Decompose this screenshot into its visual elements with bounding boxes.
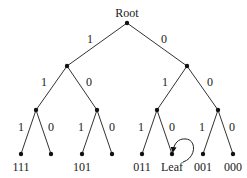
edge-label: 1 — [78, 120, 84, 134]
tree-edges — [21, 23, 233, 154]
tree-node — [155, 108, 159, 112]
tree-node — [65, 64, 69, 68]
leaf-label: 101 — [73, 160, 91, 174]
root-label: Root — [115, 6, 139, 20]
tree-node — [110, 152, 114, 156]
tree-edge — [127, 23, 187, 66]
binary-tree-diagram: 10101010101010 Root 111101011Leaf001000 — [0, 0, 247, 178]
edge-label: 0 — [169, 120, 175, 134]
tree-node — [140, 152, 144, 156]
leaf-label: 011 — [133, 160, 151, 174]
tree-node — [49, 152, 53, 156]
edge-label: 1 — [138, 120, 144, 134]
edge-labels: 10101010101010 — [18, 32, 235, 134]
edge-label: 1 — [41, 75, 47, 89]
tree-edge — [203, 110, 218, 154]
leaf-label: Leaf — [161, 160, 183, 174]
tree-edge — [187, 66, 218, 110]
edge-label: 1 — [87, 32, 93, 46]
tree-edge — [67, 66, 97, 110]
edge-label: 0 — [86, 75, 92, 89]
leaf-label: 111 — [12, 160, 29, 174]
leaf-label: 000 — [224, 160, 242, 174]
tree-node — [201, 152, 205, 156]
tree-edge — [142, 110, 157, 154]
tree-node — [170, 152, 174, 156]
leaf-labels: 111101011Leaf001000 — [12, 160, 242, 174]
edge-label: 0 — [229, 120, 235, 134]
tree-node — [19, 152, 23, 156]
tree-node — [34, 108, 38, 112]
edge-label: 0 — [207, 75, 213, 89]
edge-label: 1 — [18, 120, 24, 134]
leaf-label: 001 — [194, 160, 212, 174]
tree-node — [231, 152, 235, 156]
tree-node — [216, 108, 220, 112]
tree-node — [185, 64, 189, 68]
tree-edge — [67, 23, 127, 66]
edge-label: 1 — [199, 120, 205, 134]
edge-label: 1 — [162, 75, 168, 89]
tree-node — [95, 108, 99, 112]
edge-label: 0 — [161, 32, 167, 46]
edge-label: 0 — [109, 120, 115, 134]
tree-node — [125, 21, 129, 25]
edge-label: 0 — [48, 120, 54, 134]
tree-edge — [82, 110, 97, 154]
leaf-pointer-arrow-icon — [173, 139, 194, 162]
tree-node — [80, 152, 84, 156]
